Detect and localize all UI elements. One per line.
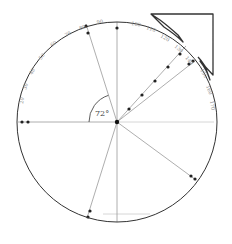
data-point [20, 120, 23, 123]
tick-label: 60 [49, 39, 58, 48]
data-point [189, 174, 192, 177]
tick-label: 140 [184, 55, 195, 66]
radial-line-up-left [84, 24, 117, 122]
tick-label: 20 [18, 97, 25, 104]
radial-line-lower-right [117, 122, 197, 181]
tick-label: 130 [173, 43, 184, 54]
data-point [26, 120, 29, 123]
tick-label: 110 [146, 24, 157, 33]
protractor-diagram: 72° 908070605040302010011012013014015016… [0, 0, 232, 244]
tick-label: 40 [28, 67, 36, 76]
data-point [140, 93, 143, 96]
tick-label: 160 [205, 84, 214, 95]
data-point [166, 65, 169, 68]
radial-line-lower-left [86, 122, 117, 219]
guide-lines [103, 122, 214, 214]
radial-line-diag-lower [117, 59, 196, 122]
data-point [153, 79, 156, 82]
angle-label: 72° [95, 109, 109, 118]
data-point [193, 177, 196, 180]
tick-label: 30 [21, 82, 29, 90]
center-point [115, 120, 119, 124]
tick-label: 120 [160, 33, 171, 43]
data-point [88, 209, 91, 212]
radial-line-left-horizontal [18, 120, 117, 123]
data-point [127, 107, 130, 110]
data-point [86, 31, 89, 34]
data-point [115, 26, 118, 29]
tick-label: 70 [64, 29, 73, 37]
tick-label: 170 [209, 100, 217, 110]
radial-line-vertical [115, 22, 118, 122]
tick-label: 100 [131, 20, 141, 28]
tick-label: 80 [78, 23, 86, 31]
tick-label: 90 [96, 18, 103, 25]
